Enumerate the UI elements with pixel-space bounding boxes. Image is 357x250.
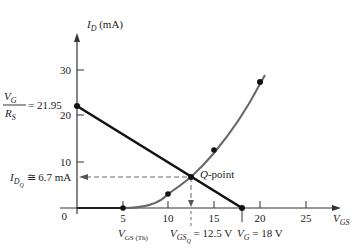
x-axis-arrow-icon — [332, 205, 341, 211]
vgsq-arrow-icon — [188, 200, 194, 207]
svg-text:VG: VG — [4, 90, 17, 105]
x-tick-25: 25 — [301, 212, 313, 224]
y-axis-arrow-icon — [74, 33, 80, 42]
q-point-label: Q-point — [200, 168, 234, 180]
y-ticks — [77, 70, 84, 162]
y-tick-30: 30 — [60, 64, 72, 76]
vg-over-rs-label: VG RS = 21.95 — [3, 90, 62, 122]
y-tick-20: 20 — [60, 109, 72, 121]
transfer-curve — [77, 75, 265, 208]
transfer-characteristic-chart: ID (mA) 30 20 10 0 5 10 15 20 25 VGS VG … — [0, 0, 357, 250]
bias-line — [77, 106, 242, 208]
y-tick-10: 10 — [60, 156, 72, 168]
x-tick-5: 5 — [120, 212, 126, 224]
x-axis-label: VGS — [333, 212, 350, 227]
x-tick-15: 15 — [209, 212, 221, 224]
x-tick-10: 10 — [163, 212, 175, 224]
x-tick-20: 20 — [255, 212, 267, 224]
svg-text:RS: RS — [4, 107, 16, 122]
y-axis-label: ID (mA) — [86, 18, 123, 33]
data-points — [74, 79, 263, 211]
vg-label: VG = 18 V — [237, 227, 283, 242]
idq-arrow-icon — [79, 174, 88, 180]
origin-label: 0 — [62, 210, 68, 222]
idq-label: IDQ ≅ 6.7 mA — [9, 171, 71, 188]
vgsq-label: VGSQ = 12.5 V — [170, 227, 232, 244]
svg-text:= 21.95: = 21.95 — [28, 99, 62, 111]
vgs-th-label: VGS (Th) — [118, 227, 149, 242]
